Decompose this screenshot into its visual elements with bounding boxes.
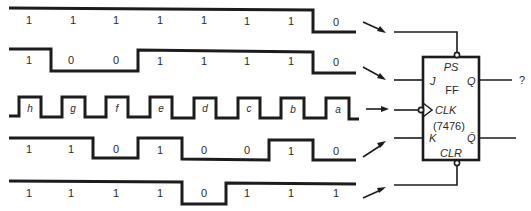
- j-value: 1: [244, 55, 250, 67]
- j-value: 0: [68, 54, 74, 66]
- clr-waveform: 1 1 1 1 0 1 1 1: [9, 181, 356, 204]
- ps-value: 1: [26, 14, 32, 26]
- preset-inversion-bubble-icon: [454, 52, 459, 57]
- k-value: 1: [288, 145, 294, 157]
- clk-pulse-label: a: [335, 104, 341, 115]
- flip-flop-7476: PS J FF Q CLK (7476) K Q̄ CLR ?: [418, 52, 525, 165]
- ps-value: 1: [157, 14, 163, 26]
- pin-label-ps: PS: [444, 61, 459, 73]
- j-waveform: 1 0 0 1 1 1 1 0: [9, 49, 356, 73]
- clk-pulse-label: b: [290, 104, 296, 115]
- j-value: 1: [157, 55, 163, 67]
- clk-pulse-label: d: [202, 103, 208, 114]
- arrowhead-icon: [377, 26, 386, 33]
- pin-label-q: Q: [467, 75, 476, 87]
- ps-value: 0: [333, 16, 339, 28]
- k-value: 1: [26, 143, 32, 155]
- ff-name-label: FF: [445, 84, 459, 96]
- pin-label-j: J: [429, 75, 436, 87]
- k-value: 1: [68, 143, 74, 155]
- pin-label-k: K: [429, 132, 437, 144]
- clk-pulse-label: g: [70, 103, 76, 114]
- pin-label-clr: CLR: [440, 147, 462, 159]
- ps-value: 1: [113, 14, 119, 26]
- input-arrows: [363, 22, 389, 198]
- j-value: 1: [201, 55, 207, 67]
- timing-diagram: 1 1 1 1 1 1 1 0 1 0 0 1 1 1 1 0 h g f e …: [0, 0, 531, 211]
- clk-pulse-label: e: [158, 103, 164, 114]
- pin-label-q-bar: Q̄: [467, 132, 476, 144]
- ps-value: 1: [70, 14, 76, 26]
- output-unknown-label: ?: [519, 74, 525, 86]
- j-value: 0: [333, 56, 339, 68]
- arrowhead-icon: [377, 187, 386, 193]
- clr-value: 1: [157, 187, 163, 199]
- k-value: 0: [201, 144, 207, 156]
- j-value: 1: [26, 54, 32, 66]
- clk-pulse-label: c: [247, 103, 252, 114]
- clr-value: 1: [68, 187, 74, 199]
- pin-label-clk: CLK: [435, 104, 457, 116]
- part-number-label: (7476): [433, 120, 465, 132]
- clr-value: 1: [113, 187, 119, 199]
- clk-waveform: h g f e d c b a: [9, 97, 359, 119]
- j-value: 1: [288, 55, 294, 67]
- clk-pulse-label: f: [116, 103, 120, 114]
- k-value: 0: [113, 143, 119, 155]
- ps-waveform: 1 1 1 1 1 1 1 0: [9, 8, 356, 32]
- clk-pulse-label: h: [27, 103, 33, 114]
- ps-value: 1: [201, 14, 207, 26]
- clear-inversion-bubble-icon: [454, 160, 459, 165]
- j-value: 0: [113, 54, 119, 66]
- arrowhead-icon: [381, 106, 389, 112]
- clr-value: 1: [26, 187, 32, 199]
- clr-value: 1: [244, 187, 250, 199]
- clr-value: 1: [333, 187, 339, 199]
- ps-value: 1: [244, 15, 250, 27]
- clock-inversion-bubble-icon: [418, 107, 423, 112]
- ps-value: 1: [288, 15, 294, 27]
- arrowhead-icon: [377, 73, 386, 80]
- clr-value: 0: [201, 187, 207, 199]
- k-value: 0: [333, 145, 339, 157]
- k-waveform: 1 1 0 1 0 0 1 0: [9, 138, 356, 160]
- k-value: 1: [157, 144, 163, 156]
- clr-value: 1: [288, 187, 294, 199]
- k-value: 0: [244, 144, 250, 156]
